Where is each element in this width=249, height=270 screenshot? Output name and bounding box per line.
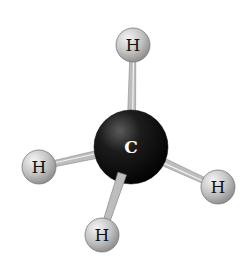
- methane-model: HHHCH: [0, 0, 249, 270]
- hydrogen-atom-left: H: [22, 150, 56, 184]
- carbon-atom: C: [94, 110, 168, 184]
- hydrogen-label: H: [211, 177, 226, 197]
- hydrogen-atom-right: H: [201, 170, 235, 204]
- hydrogen-label: H: [95, 225, 110, 245]
- hydrogen-atom-top: H: [116, 28, 150, 62]
- carbon-label: C: [124, 137, 138, 157]
- atoms: HHHCH: [22, 28, 235, 252]
- hydrogen-atom-bottom: H: [85, 218, 119, 252]
- hydrogen-label: H: [126, 35, 141, 55]
- hydrogen-label: H: [32, 157, 47, 177]
